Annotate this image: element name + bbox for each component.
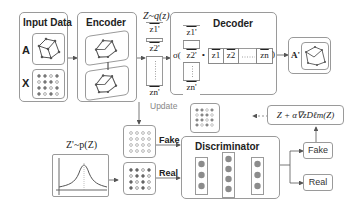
- prior-plot: [52, 154, 109, 197]
- link-icon: [105, 62, 111, 70]
- input-data-title: Input Data: [23, 17, 72, 28]
- prior-title: Z'~p(Z): [66, 139, 97, 150]
- encoder-title: Encoder: [86, 17, 126, 28]
- encoder-graph-2: [85, 65, 129, 101]
- latent-z1-label: z1': [149, 24, 159, 34]
- layer-2: [222, 152, 235, 198]
- decoder-row-z1: z1: [208, 48, 224, 64]
- discriminator-title: Discriminator: [195, 141, 259, 152]
- update-label: Update: [150, 101, 177, 111]
- ellipsis-icon: [154, 61, 157, 81]
- ellipsis-icon: [242, 56, 255, 58]
- graph-icon: [86, 66, 128, 100]
- latent-title: Z~q(z): [143, 10, 170, 21]
- real-input-label: Real: [159, 168, 178, 178]
- decoder-column: z1' z2' zn': [183, 25, 200, 95]
- decoder-col-zn-label: zn': [186, 82, 196, 92]
- layer-3: [251, 157, 264, 195]
- latent-column: z1' z2' zn': [146, 22, 163, 102]
- decoder-title: Decoder: [213, 18, 253, 29]
- fake-output: Fake: [303, 142, 333, 159]
- dot-matrix-icon: [191, 104, 219, 132]
- decoder-row-z2-label: z2: [227, 50, 236, 60]
- decoder-row-z1-label: z1: [212, 50, 221, 60]
- decoder-col-z2-label: z2': [186, 50, 196, 60]
- neuron-icons: [252, 158, 263, 194]
- updated-matrix: [190, 103, 220, 133]
- encoder-panel: Encoder: [77, 12, 137, 102]
- latent-zn-label: zn': [149, 87, 159, 97]
- graph-icon: [302, 43, 328, 69]
- real-matrix: [123, 162, 156, 195]
- output-graph: [301, 42, 329, 70]
- decoder-row-zn-label: zn: [260, 50, 269, 60]
- output-label: A': [291, 50, 300, 60]
- real-output: Real: [303, 174, 333, 191]
- encoder-graph-1: [85, 30, 129, 66]
- ellipsis-icon: [191, 66, 194, 78]
- fake-input-label: Fake: [159, 135, 180, 145]
- dot-matrix-icon: [124, 163, 155, 194]
- sigma-label: σ(: [173, 50, 181, 60]
- decoder-panel: Decoder σ( z1' z2' zn' • z1 z2 zn ): [170, 12, 277, 95]
- discriminator-panel: Discriminator: [181, 136, 280, 199]
- feature-matrix: [32, 69, 65, 99]
- graph-icon: [86, 31, 128, 65]
- decoder-row-zn: zn: [256, 48, 273, 64]
- gradient-update-formula: Z + α∇zDℓm(Z): [267, 105, 344, 125]
- decoder-row: z1 z2 zn: [208, 48, 272, 64]
- label-a: A: [22, 44, 30, 56]
- dot-matrix-icon: [124, 126, 155, 157]
- adjacency-graph: [32, 33, 65, 65]
- dot-operator: •: [202, 50, 205, 59]
- decoder-col-z2: z2': [183, 48, 200, 63]
- graph-icon: [33, 34, 64, 64]
- dot-matrix-icon: [33, 70, 64, 98]
- gaussian-curve-icon: [53, 155, 108, 196]
- layer-1: [195, 157, 208, 195]
- decoder-col-z1: z1': [183, 26, 200, 41]
- neuron-icons: [223, 153, 234, 197]
- latent-zn: zn': [146, 85, 163, 102]
- latent-z2-label: z2': [149, 43, 159, 53]
- neuron-icons: [196, 158, 207, 194]
- latent-z2: z2': [146, 41, 163, 57]
- output-panel: A': [288, 37, 331, 74]
- decoder-col-zn: zn': [183, 80, 200, 95]
- decoder-row-z2: z2: [223, 48, 239, 64]
- input-data-panel: Input Data A X: [19, 12, 68, 102]
- latent-z1: z1': [146, 23, 163, 39]
- fake-matrix: [123, 125, 156, 158]
- label-x: X: [22, 77, 29, 89]
- close-paren: ): [272, 49, 275, 59]
- decoder-col-z1-label: z1': [186, 27, 196, 37]
